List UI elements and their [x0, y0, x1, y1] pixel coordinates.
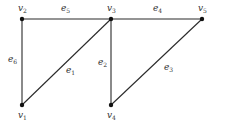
vertex-label-v4: v4 — [107, 111, 116, 121]
edge-e3 — [111, 19, 202, 105]
vertex-label-v3: v3 — [107, 4, 116, 14]
vertex-v5 — [200, 17, 204, 21]
vertex-v1 — [20, 103, 24, 107]
edge-label-e2: e2 — [98, 58, 107, 68]
graph-diagram — [0, 0, 250, 127]
vertex-v4 — [109, 103, 113, 107]
vertex-v3 — [109, 17, 113, 21]
edge-label-e4: e4 — [153, 4, 162, 14]
edge-label-e3: e3 — [164, 63, 173, 73]
edge-label-e6: e6 — [8, 55, 17, 65]
vertex-label-v2: v2 — [18, 4, 27, 14]
vertex-label-v5: v5 — [198, 4, 207, 14]
vertex-label-v1: v1 — [18, 111, 27, 121]
edge-label-e1: e1 — [66, 66, 75, 76]
vertex-v2 — [20, 17, 24, 21]
edge-label-e5: e5 — [61, 4, 70, 14]
